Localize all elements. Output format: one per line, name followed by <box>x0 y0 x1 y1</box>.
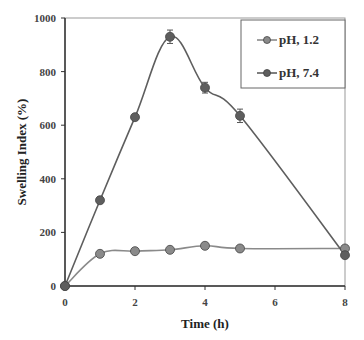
y-axis-label: Swelling Index (%) <box>14 99 29 206</box>
data-point <box>96 196 105 205</box>
y-tick-label: 0 <box>51 280 57 292</box>
data-point <box>166 245 175 254</box>
x-tick-label: 2 <box>132 296 138 308</box>
y-tick-label: 1000 <box>34 12 57 24</box>
data-point <box>131 113 140 122</box>
x-tick-label: 0 <box>62 296 68 308</box>
series-line-ph-1-2 <box>65 246 345 286</box>
y-tick-label: 600 <box>40 119 57 131</box>
data-point <box>341 251 350 260</box>
y-tick-label: 400 <box>40 173 57 185</box>
data-point <box>61 282 70 291</box>
data-point <box>166 32 175 41</box>
data-point <box>201 241 210 250</box>
x-tick-label: 8 <box>342 296 348 308</box>
swelling-chart: 0200400600800100002468Time (h)Swelling I… <box>0 0 364 340</box>
y-tick-label: 200 <box>40 226 57 238</box>
data-point <box>201 83 210 92</box>
legend-label: pH, 7.4 <box>279 65 320 80</box>
data-point <box>96 249 105 258</box>
legend-marker <box>264 70 271 77</box>
data-point <box>131 247 140 256</box>
legend-label: pH, 1.2 <box>279 32 319 47</box>
data-point <box>236 111 245 120</box>
x-tick-label: 4 <box>202 296 208 308</box>
x-axis-label: Time (h) <box>181 316 229 331</box>
data-point <box>236 244 245 253</box>
x-tick-label: 6 <box>272 296 278 308</box>
legend-marker <box>264 37 271 44</box>
y-tick-label: 800 <box>40 66 57 78</box>
